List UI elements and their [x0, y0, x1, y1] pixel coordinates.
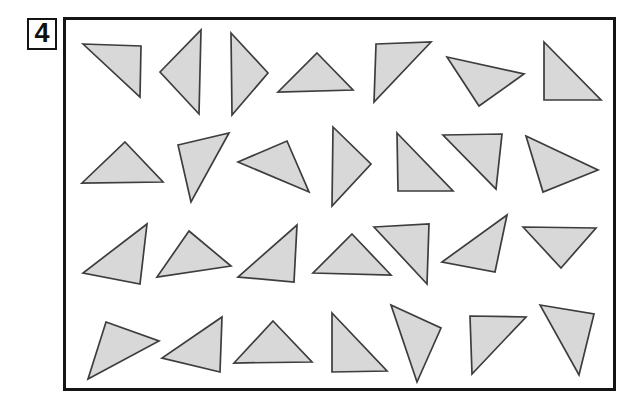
- worksheet-page: 4: [0, 0, 644, 397]
- triangle-18: [313, 234, 391, 275]
- triangle-11: [332, 127, 371, 206]
- triangle-10: [238, 141, 309, 192]
- triangle-6: [447, 57, 524, 106]
- triangle-23: [162, 317, 222, 372]
- triangle-16: [157, 231, 231, 277]
- triangle-3: [231, 33, 268, 115]
- triangle-17: [238, 225, 297, 282]
- triangle-8: [82, 142, 163, 183]
- triangle-24: [234, 321, 312, 363]
- triangle-28: [540, 305, 594, 375]
- triangle-26: [391, 305, 441, 382]
- triangle-27: [470, 316, 526, 374]
- triangle-9: [178, 133, 229, 202]
- triangle-14: [526, 136, 598, 192]
- triangle-25: [332, 313, 387, 372]
- triangle-21: [523, 227, 596, 268]
- triangle-12: [397, 133, 453, 191]
- triangle-20: [442, 215, 507, 272]
- triangle-22: [88, 322, 159, 379]
- triangles-canvas: [0, 0, 644, 397]
- triangle-2: [160, 30, 201, 114]
- triangle-13: [443, 134, 502, 189]
- triangle-5: [374, 42, 431, 102]
- triangle-7: [544, 42, 601, 100]
- triangle-4: [278, 53, 353, 92]
- triangle-1: [83, 44, 141, 97]
- triangle-15: [83, 224, 147, 284]
